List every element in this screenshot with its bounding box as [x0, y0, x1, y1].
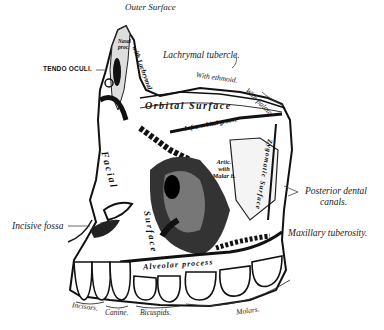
label-maxillary-tuberosity: Maxillary tuberosity.	[288, 228, 367, 238]
label-artic-with-malar: Artic. with Malar b.	[210, 158, 238, 179]
label-lachrymal-tubercle: Lachrymal tubercle.	[163, 50, 240, 60]
label-outer-surface: Outer Surface	[125, 2, 176, 12]
maxilla-illustration: Outer Surface Lachrymal tubercle. TENDO …	[0, 0, 384, 330]
label-tendo-oculi: TENDO OCULI.	[43, 65, 92, 72]
label-posterior-dental-2: canals.	[320, 197, 347, 207]
label-orbital-surface: Orbital Surface	[145, 100, 232, 111]
label-posterior-dental-1: Posterior dental	[305, 186, 367, 196]
label-canine: Canine.	[105, 308, 129, 317]
label-bicuspids: Bicuspids.	[140, 308, 171, 317]
label-incisive-fossa: Incisive fossa	[12, 221, 63, 231]
